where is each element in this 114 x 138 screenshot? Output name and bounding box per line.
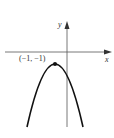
y-axis-label: y	[57, 20, 62, 29]
vertex-point	[53, 62, 57, 66]
x-axis-label: x	[104, 55, 109, 64]
x-axis-arrow-icon	[104, 50, 112, 55]
vertex-label: (−1, −1)	[19, 54, 46, 63]
parabola-curve	[27, 64, 83, 127]
graph-canvas: y x (−1, −1)	[0, 0, 114, 138]
y-axis-arrow-icon	[65, 21, 70, 29]
